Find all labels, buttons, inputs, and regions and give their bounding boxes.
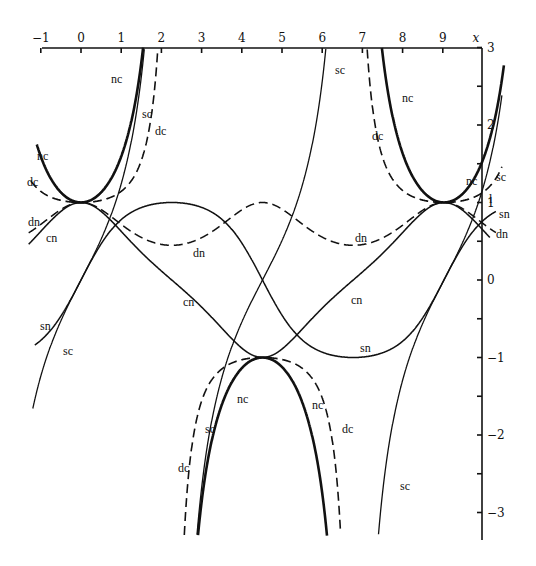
curves — [29, 48, 504, 536]
y-tick-label: −3 — [487, 506, 505, 520]
x-tick-label: 5 — [278, 31, 286, 45]
curve-cn — [29, 203, 490, 358]
label-nc: nc — [111, 72, 122, 86]
label-nc: nc — [237, 392, 248, 406]
x-tick-label: 6 — [318, 31, 326, 45]
label-nc: nc — [466, 174, 477, 188]
label-cn: cn — [46, 231, 57, 245]
label-nc: nc — [312, 398, 323, 412]
label-sc: sc — [400, 479, 410, 493]
label-sc: sc — [496, 170, 506, 184]
x-tick-label: 4 — [238, 31, 246, 45]
x-tick-label: 3 — [198, 31, 206, 45]
label-nc: nc — [402, 91, 413, 105]
label-sn: sn — [360, 341, 371, 355]
y-tick-label: 3 — [487, 41, 495, 55]
label-dc: dc — [178, 461, 189, 475]
label-dn: dn — [193, 246, 205, 260]
label-nc: nc — [37, 149, 48, 163]
label-dc: dc — [342, 422, 353, 436]
x-tick-label: 8 — [399, 31, 407, 45]
curve-sn — [35, 203, 496, 358]
y-tick-label: −2 — [487, 428, 505, 442]
label-cn: cn — [183, 295, 194, 309]
x-tick-label: 9 — [439, 31, 447, 45]
label-sc: sc — [335, 63, 345, 77]
label-dn: dn — [496, 227, 508, 241]
x-axis-label: x — [473, 31, 480, 45]
label-dc: dc — [27, 175, 38, 189]
x-tick-label: 0 — [77, 31, 85, 45]
curve-dc — [31, 49, 502, 535]
curve-sc — [33, 49, 502, 535]
y-tick-label: 0 — [487, 273, 495, 287]
label-sc: sc — [205, 422, 215, 436]
x-tick-label: −1 — [32, 31, 50, 45]
elliptic-functions-chart: −10123456789x3210−1−2−3 ncscdcncdcdncnsn… — [0, 0, 536, 566]
label-sn: sn — [40, 319, 51, 333]
label-dn: dn — [355, 231, 367, 245]
label-cn: cn — [351, 293, 362, 307]
curve-labels: ncscdcncdcdncnsnscdncnscncdcncscsndndncn… — [27, 63, 510, 493]
x-tick-label: 1 — [117, 31, 125, 45]
x-tick-label: 2 — [158, 31, 166, 45]
label-sn: sn — [499, 207, 510, 221]
label-dc: dc — [155, 124, 166, 138]
label-dc: dc — [372, 129, 383, 143]
label-dn: dn — [28, 215, 40, 229]
label-sc: sc — [142, 107, 152, 121]
label-sc: sc — [63, 344, 73, 358]
x-tick-label: 7 — [359, 31, 367, 45]
curve-nc — [37, 48, 504, 536]
axes: −10123456789x3210−1−2−3 — [32, 31, 505, 540]
y-tick-label: −1 — [487, 351, 505, 365]
